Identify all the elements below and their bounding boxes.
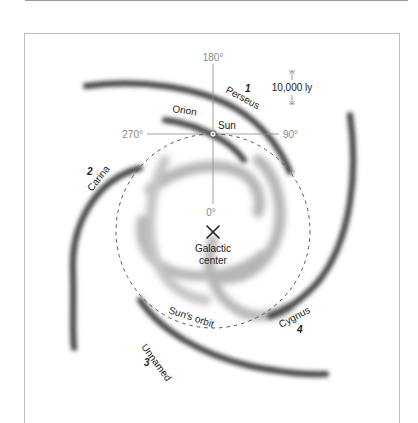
axis-label-0: 0°	[206, 207, 216, 218]
axis-label-270: 270°	[122, 129, 143, 140]
sun-label: Sun	[218, 120, 236, 131]
scale-bar-label: 10,000 ly	[272, 82, 313, 93]
axis-label-180: 180°	[203, 52, 224, 63]
axis-label-90: 90°	[283, 129, 298, 140]
carina-arm	[73, 168, 140, 348]
inner-arms	[141, 160, 288, 316]
carina-number: 2	[86, 166, 93, 177]
unnamed-number: 3	[144, 357, 150, 368]
galactic-center-label-line2: center	[199, 255, 227, 266]
cygnus-number: 4	[296, 324, 303, 335]
orion-label: Orion	[172, 103, 198, 117]
galactic-center-label-line1: Galactic	[195, 243, 231, 254]
